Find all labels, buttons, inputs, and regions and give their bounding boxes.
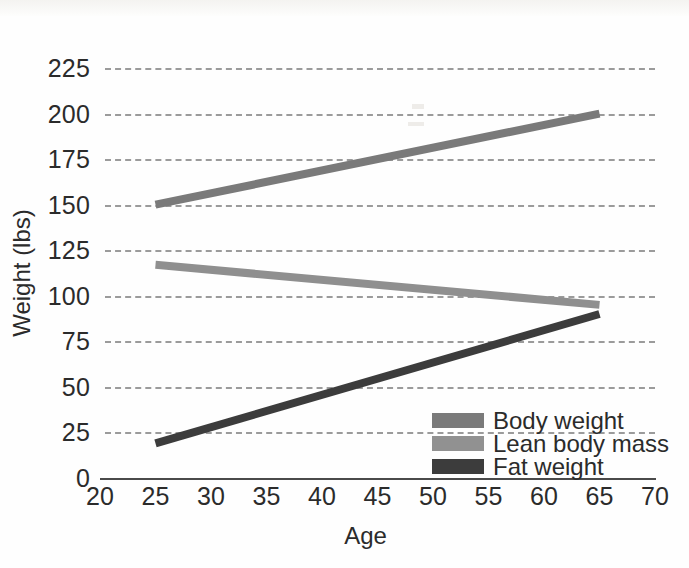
x-axis-title-text: Age (344, 522, 387, 550)
y-tick-label: 25 (62, 420, 90, 445)
legend-swatch (432, 459, 484, 474)
x-tick-label: 60 (530, 484, 558, 509)
x-tick-label: 55 (474, 484, 502, 509)
chart-legend: Body weightLean body massFat weight (432, 409, 662, 478)
legend-label: Fat weight (493, 455, 604, 479)
x-axis-title: Age (0, 522, 689, 550)
x-tick-label: 30 (197, 484, 225, 509)
legend-swatch (432, 413, 484, 428)
y-tick-label: 75 (62, 329, 90, 354)
y-tick-label: 175 (48, 147, 90, 172)
x-tick-label: 65 (585, 484, 613, 509)
legend-item: Body weight (432, 409, 662, 432)
x-tick-label: 70 (641, 484, 669, 509)
legend-label: Lean body mass (493, 432, 669, 456)
y-axis-title: Weight (lbs) (8, 209, 36, 337)
x-tick-label: 50 (419, 484, 447, 509)
y-tick-label: 125 (48, 238, 90, 263)
y-tick-label: 150 (48, 192, 90, 217)
legend-swatch (432, 436, 484, 451)
chart-figure: Weight (lbs) 0255075100125150175200225 2… (0, 0, 689, 568)
y-tick-label: 200 (48, 101, 90, 126)
legend-item: Fat weight (432, 455, 662, 478)
x-tick-label: 25 (141, 484, 169, 509)
series-line-body-weight (156, 114, 600, 205)
series-line-lean-body-mass (156, 265, 600, 305)
legend-label: Body weight (493, 409, 624, 433)
x-tick-label: 35 (252, 484, 280, 509)
scan-artifact (0, 0, 689, 16)
legend-item: Lean body mass (432, 432, 662, 455)
y-tick-label: 100 (48, 283, 90, 308)
y-tick-label: 50 (62, 374, 90, 399)
x-tick-label: 40 (308, 484, 336, 509)
x-tick-label: 20 (86, 484, 114, 509)
y-tick-label: 225 (48, 56, 90, 81)
x-tick-label: 45 (363, 484, 391, 509)
